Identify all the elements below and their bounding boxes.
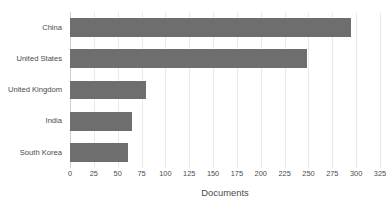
plot-area: [70, 12, 380, 168]
bar-band: [70, 106, 380, 137]
bar-china[interactable]: [70, 18, 351, 37]
y-axis-tick: United States: [0, 43, 66, 74]
x-axis-tick-label: 200: [255, 170, 267, 177]
bar-united-kingdom[interactable]: [70, 81, 146, 100]
y-axis-tick-label: China: [42, 24, 62, 32]
bar-band: [70, 43, 380, 74]
y-axis-tick-label: United States: [16, 55, 62, 63]
y-axis-category-labels: China United States United Kingdom India…: [0, 12, 66, 168]
bar-band: [70, 12, 380, 43]
x-axis-tick-label: 325: [374, 170, 386, 177]
bar-south-korea[interactable]: [70, 143, 128, 162]
bar-india[interactable]: [70, 112, 132, 131]
bar-united-states[interactable]: [70, 49, 307, 68]
y-axis-tick: South Korea: [0, 137, 66, 168]
x-axis-tick-label: 250: [302, 170, 314, 177]
x-axis-tick-label: 100: [159, 170, 171, 177]
gridline: [380, 12, 381, 168]
x-axis-tick-label: 175: [231, 170, 243, 177]
x-axis-tick-label: 125: [183, 170, 195, 177]
y-axis-tick-label: South Korea: [20, 149, 62, 157]
x-axis-tick-label: 275: [326, 170, 338, 177]
x-axis-tick-label: 75: [137, 170, 145, 177]
x-axis-tick-label: 0: [68, 170, 72, 177]
y-axis-tick: India: [0, 106, 66, 137]
bar-band: [70, 137, 380, 168]
y-axis-tick: United Kingdom: [0, 74, 66, 105]
y-axis-tick-label: India: [46, 117, 62, 125]
bar-series: [70, 12, 380, 168]
bar-band: [70, 74, 380, 105]
x-axis-tick-label: 150: [207, 170, 219, 177]
x-axis-title: Documents: [70, 188, 380, 197]
x-axis-tick-label: 50: [114, 170, 122, 177]
y-axis-tick-label: United Kingdom: [8, 86, 62, 94]
x-axis-tick-label: 225: [278, 170, 290, 177]
x-axis-tick-labels: 0255075100125150175200225250275300325: [70, 170, 380, 182]
x-axis-tick-label: 300: [350, 170, 362, 177]
y-axis-tick: China: [0, 12, 66, 43]
x-axis-tick-label: 25: [90, 170, 98, 177]
bar-chart: China United States United Kingdom India…: [0, 0, 392, 210]
